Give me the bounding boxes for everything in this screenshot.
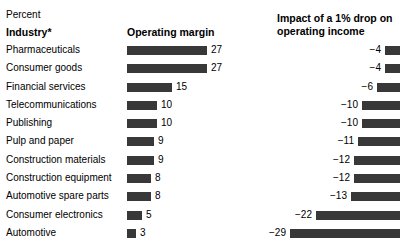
impact-value: −12 — [333, 172, 350, 184]
column-header-industry: Industry* — [6, 26, 52, 38]
category-label: Pharmaceuticals — [6, 44, 80, 56]
operating-margin-bar — [127, 64, 207, 73]
chart-row: Publishing10−10 — [0, 116, 407, 134]
chart-row: Construction materials9−12 — [0, 153, 407, 171]
operating-margin-value: 5 — [146, 209, 152, 221]
impact-value: −6 — [362, 81, 373, 93]
category-label: Construction materials — [6, 154, 105, 166]
operating-margin-value: 10 — [161, 99, 172, 111]
category-label: Publishing — [6, 117, 52, 129]
operating-margin-value: 8 — [155, 172, 161, 184]
impact-bar — [290, 229, 400, 238]
operating-margin-bar — [127, 156, 154, 165]
impact-value: −10 — [341, 99, 358, 111]
chart-canvas: Percent Industry* Operating margin Impac… — [0, 0, 407, 251]
impact-bar — [362, 101, 400, 110]
category-label: Consumer electronics — [6, 209, 103, 221]
chart-row: Consumer goods27−4 — [0, 61, 407, 79]
operating-margin-value: 8 — [155, 190, 161, 202]
operating-margin-bar — [127, 101, 157, 110]
impact-value: −11 — [338, 135, 354, 147]
chart-row: Pharmaceuticals27−4 — [0, 43, 407, 61]
operating-margin-value: 10 — [161, 117, 172, 129]
operating-margin-value: 27 — [211, 62, 222, 74]
operating-margin-bar — [127, 137, 154, 146]
category-label: Automotive spare parts — [6, 190, 109, 202]
chart-row: Automotive3−29 — [0, 226, 407, 244]
impact-value: −22 — [295, 209, 312, 221]
category-label: Financial services — [6, 81, 85, 93]
impact-bar — [385, 46, 400, 55]
unit-label: Percent — [6, 9, 40, 21]
operating-margin-bar — [127, 192, 151, 201]
operating-margin-bar — [127, 229, 136, 238]
chart-rows: Pharmaceuticals27−4Consumer goods27−4Fin… — [0, 43, 407, 244]
chart-row: Automotive spare parts8−13 — [0, 189, 407, 207]
chart-row: Financial services15−6 — [0, 80, 407, 98]
operating-margin-bar — [127, 46, 207, 55]
operating-margin-value: 15 — [176, 81, 187, 93]
column-header-operating-margin: Operating margin — [127, 26, 215, 38]
operating-margin-value: 27 — [211, 44, 222, 56]
operating-margin-value: 9 — [158, 154, 164, 166]
impact-bar — [377, 83, 400, 92]
chart-row: Pulp and paper9−11 — [0, 134, 407, 152]
impact-bar — [358, 137, 400, 146]
impact-bar — [362, 119, 400, 128]
column-header-impact: Impact of a 1% drop on operating income — [277, 12, 405, 37]
impact-value: −4 — [370, 62, 381, 74]
operating-margin-value: 9 — [158, 135, 164, 147]
impact-bar — [316, 211, 400, 220]
operating-margin-value: 3 — [140, 227, 146, 239]
impact-value: −10 — [341, 117, 358, 129]
operating-margin-bar — [127, 174, 151, 183]
impact-bar — [354, 156, 400, 165]
impact-value: −4 — [370, 44, 381, 56]
operating-margin-bar — [127, 211, 142, 220]
chart-row: Construction equipment8−12 — [0, 171, 407, 189]
operating-margin-bar — [127, 119, 157, 128]
impact-value: −12 — [333, 154, 350, 166]
category-label: Consumer goods — [6, 62, 82, 74]
category-label: Automotive — [6, 227, 56, 239]
impact-bar — [351, 192, 400, 201]
category-label: Telecommunications — [6, 99, 97, 111]
impact-value: −13 — [330, 190, 347, 202]
chart-row: Consumer electronics5−22 — [0, 208, 407, 226]
category-label: Construction equipment — [6, 172, 112, 184]
impact-bar — [354, 174, 400, 183]
impact-bar — [385, 64, 400, 73]
chart-row: Telecommunications10−10 — [0, 98, 407, 116]
impact-value: −29 — [269, 227, 286, 239]
category-label: Pulp and paper — [6, 135, 74, 147]
operating-margin-bar — [127, 83, 172, 92]
